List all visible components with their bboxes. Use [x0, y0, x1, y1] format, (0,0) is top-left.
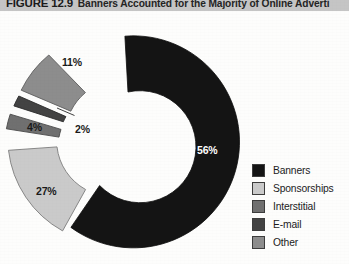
legend-item-email[interactable]: E-mail	[252, 216, 348, 233]
figure-caption-bar: FIGURE 12.9Banners Accounted for the Maj…	[0, 0, 349, 11]
legend-swatch-banners	[252, 164, 265, 177]
figure-scan-page: FIGURE 12.9Banners Accounted for the Maj…	[0, 0, 349, 264]
legend-swatch-email	[252, 218, 265, 231]
legend-item-banners[interactable]: Banners	[252, 162, 348, 179]
legend-item-other[interactable]: Other	[252, 234, 348, 251]
donut-chart: 56% 27% 4% 2% 11%	[0, 11, 240, 264]
legend-label-sponsorships: Sponsorships	[273, 183, 334, 194]
legend-swatch-interstitial	[252, 200, 265, 213]
legend-item-sponsorships[interactable]: Sponsorships	[252, 180, 348, 197]
legend-label-interstitial: Interstitial	[273, 201, 315, 212]
donut-slice-banners[interactable]	[71, 36, 240, 248]
legend-swatch-other	[252, 236, 265, 249]
figure-number: FIGURE 12.9	[6, 0, 73, 9]
legend-label-email: E-mail	[273, 219, 301, 230]
value-label-other: 11%	[62, 56, 82, 68]
figure-caption-text: Banners Accounted for the Majority of On…	[78, 0, 330, 9]
value-label-email: 2%	[75, 123, 90, 135]
figure-caption-inner: FIGURE 12.9Banners Accounted for the Maj…	[6, 0, 329, 11]
value-label-sponsorships: 27%	[36, 185, 56, 197]
chart-legend: Banners Sponsorships Interstitial E-mail…	[252, 162, 348, 252]
legend-label-other: Other	[273, 237, 298, 248]
value-label-interstitial: 4%	[27, 121, 42, 133]
legend-label-banners: Banners	[273, 165, 310, 176]
donut-chart-svg	[0, 11, 240, 264]
legend-item-interstitial[interactable]: Interstitial	[252, 198, 348, 215]
value-label-banners: 56%	[197, 144, 217, 156]
legend-swatch-sponsorships	[252, 182, 265, 195]
